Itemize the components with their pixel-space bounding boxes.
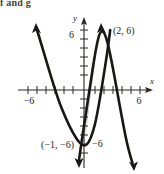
x-tick-label-negative-six: −6 xyxy=(24,95,35,106)
x-tick-label-positive-six: 6 xyxy=(137,95,142,106)
figure-container: f and g xyxy=(0,0,164,174)
y-tick-label-negative-six: −6 xyxy=(92,138,103,149)
y-axis-label: y xyxy=(72,13,77,23)
y-tick-label-positive-six: 6 xyxy=(69,29,74,40)
annotation-point-2-6: (2, 6) xyxy=(113,25,135,37)
graph-plot: x y −6 6 6 −6 (2, 6) (−1, −6) xyxy=(0,0,164,174)
annotation-point-minus1-minus6: (−1, −6) xyxy=(41,139,74,151)
x-axis-label: x xyxy=(149,76,154,86)
